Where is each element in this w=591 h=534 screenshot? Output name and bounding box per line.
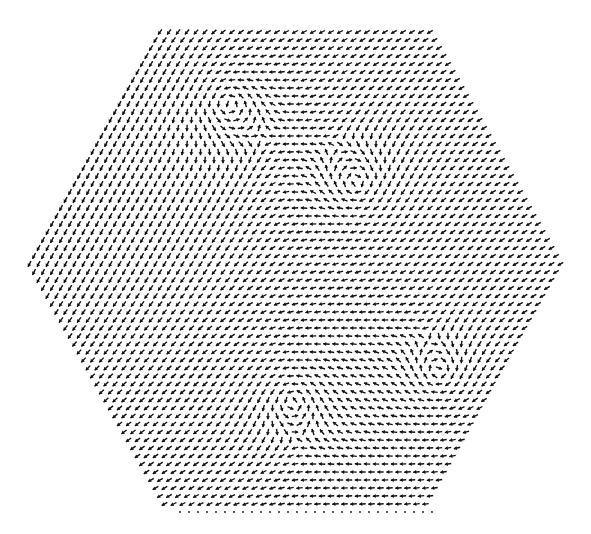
arrow-head [292,350,295,354]
arrow-head [346,494,349,498]
arrow-head [368,326,371,330]
boundary-dot [341,511,343,513]
arrow-head [305,470,308,474]
arrow-head [422,438,425,442]
boundary-dot [197,511,199,513]
arrow-head [341,470,344,474]
arrow-head [310,318,313,322]
arrow-head [344,150,347,154]
arrow-head [341,214,344,218]
arrow-head [409,478,412,482]
arrow-head [395,454,398,458]
arrow-head [413,470,416,474]
arrow-head [364,494,367,498]
arrow-head [418,446,421,450]
arrow-head [314,502,317,506]
arrow-head [314,454,317,458]
arrow-head [323,502,326,506]
arrow-head [350,470,353,474]
arrow-head [368,502,371,506]
arrow-head [431,406,434,410]
arrow-head [418,430,421,434]
arrow-head [350,310,353,314]
arrow-head [287,198,290,202]
arrow-head [292,206,295,210]
arrow-head [194,128,198,131]
arrow-head [355,334,358,338]
arrow-head [212,160,216,163]
arrow-head [269,70,272,74]
arrow-head [440,422,443,426]
arrow-head [459,360,463,363]
arrow-head [338,173,342,176]
arrow-head [379,168,383,171]
arrow-head [427,446,430,450]
boundary-dot [278,511,280,513]
arrow-head [409,446,412,450]
arrow-head [341,310,344,314]
arrow-head [355,462,358,466]
arrow-head [413,486,416,490]
arrow-head [328,318,331,322]
arrow-head [359,454,362,458]
boundary-dot [413,511,415,513]
arrow-head [337,462,340,466]
arrow-head [427,494,430,498]
arrow-head [346,318,349,322]
arrow-head [301,494,304,498]
arrow-head [374,176,378,179]
arrow-head [341,230,344,234]
arrow-head [314,342,317,346]
arrow-head [400,430,403,434]
arrow-head [332,342,335,346]
arrow-head [287,118,290,122]
arrow-head [377,470,380,474]
arrow-head [373,462,376,466]
arrow-head [229,78,232,82]
arrow-head [319,318,322,322]
boundary-dot [179,511,181,513]
arrow-head [310,494,313,498]
arrow-head [185,128,189,131]
arrow-head [395,470,398,474]
arrow-head [305,358,308,362]
arrow-head [427,430,430,434]
arrow-head [233,70,236,74]
arrow-head [292,334,295,338]
arrow-head [296,198,299,202]
arrow-head [265,78,268,82]
boundary-dot [386,511,388,513]
arrow-head [368,310,371,314]
arrow-head [350,502,353,506]
arrow-head [270,408,274,411]
arrow-head [386,310,389,314]
arrow-head [422,454,425,458]
arrow-head [216,104,220,107]
arrow-head [296,470,299,474]
arrow-head [314,230,317,234]
arrow-head [221,160,225,163]
arrow-head [373,318,376,322]
arrow-head [203,112,207,115]
arrow-head [337,334,340,338]
arrow-head [359,502,362,506]
arrow-head [251,70,254,74]
arrow-head [332,470,335,474]
arrow-head [292,174,295,178]
arrow-head [296,342,299,346]
arrow-head [283,126,286,130]
arrow-head [434,342,437,346]
arrow-head [314,470,317,474]
arrow-head [328,222,331,226]
arrow-head [391,478,394,482]
arrow-head [382,478,385,482]
boundary-dot [242,511,244,513]
arrow-head [296,502,299,506]
boundary-dot [368,511,370,513]
arrow-head [386,470,389,474]
boundary-dot [188,511,190,513]
boundary-dot [323,511,325,513]
boundary-dot [233,511,235,513]
arrow-head [391,318,394,322]
arrow-head [350,342,353,346]
